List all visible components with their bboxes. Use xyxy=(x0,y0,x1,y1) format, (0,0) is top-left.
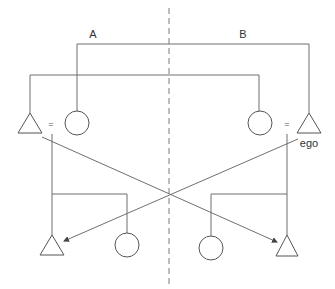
moiety-label-a: A xyxy=(89,28,97,40)
marriage-sign-right: = xyxy=(284,119,289,129)
female-circle-f2 xyxy=(248,111,272,135)
ego-label: ego xyxy=(300,137,318,149)
female-circle-f3 xyxy=(115,233,139,257)
male-triangle-m4 xyxy=(276,235,298,256)
arrow-ego-to-m3 xyxy=(64,139,298,241)
male-triangle-m1 xyxy=(18,113,42,133)
moiety-label-b: B xyxy=(239,28,246,40)
sibling-line-children-left xyxy=(52,194,127,233)
female-circle-f1 xyxy=(65,111,89,135)
sibling-line-second xyxy=(30,75,259,113)
marriage-sign-left: = xyxy=(48,119,53,129)
arrow-m1-to-m4 xyxy=(42,137,277,242)
sibling-line-top xyxy=(77,44,309,113)
female-circle-f4 xyxy=(199,236,223,260)
kinship-diagram: A B = = ego xyxy=(0,0,335,289)
male-triangle-ego xyxy=(297,113,321,133)
male-triangle-m3 xyxy=(40,235,64,255)
